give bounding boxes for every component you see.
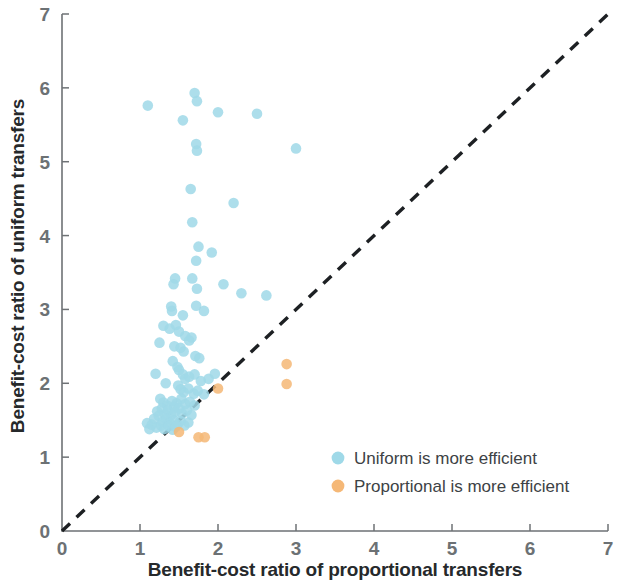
data-point <box>252 108 263 119</box>
data-point <box>228 198 239 209</box>
y-tick-label-7: 7 <box>39 4 50 25</box>
legend-label-1: Uniform is more efficient <box>354 449 537 468</box>
data-point <box>192 96 203 107</box>
data-point <box>187 217 198 228</box>
y-tick-label-5: 5 <box>39 152 50 173</box>
data-point <box>178 310 189 321</box>
x-tick-label-2: 2 <box>213 538 224 559</box>
data-point <box>187 273 198 284</box>
x-tick-label-5: 5 <box>447 538 458 559</box>
data-point <box>150 368 161 379</box>
y-tick-label-4: 4 <box>39 226 50 247</box>
data-point <box>194 353 205 364</box>
x-tick-label-1: 1 <box>135 538 146 559</box>
data-point <box>291 143 302 154</box>
scatter-chart: 0123456701234567 Uniform is more efficie… <box>0 0 629 582</box>
data-point <box>193 241 204 252</box>
data-point <box>281 379 292 390</box>
plot-area: 0123456701234567 Uniform is more efficie… <box>0 0 629 582</box>
data-point <box>174 427 185 438</box>
x-tick-label-3: 3 <box>291 538 302 559</box>
data-point <box>183 417 194 428</box>
data-point <box>213 383 224 394</box>
y-tick-label-0: 0 <box>39 521 50 542</box>
y-axis-title: Benefit-cost ratio of uniform transfers <box>7 99 28 433</box>
data-point <box>236 288 247 299</box>
data-point <box>184 335 195 346</box>
data-point <box>178 346 189 357</box>
legend-label-2: Proportional is more efficient <box>354 477 569 496</box>
y-tick-label-2: 2 <box>39 373 50 394</box>
data-point <box>261 290 272 301</box>
data-point <box>143 100 154 111</box>
data-point <box>167 306 178 317</box>
data-point <box>191 255 202 266</box>
data-point <box>281 359 292 370</box>
data-point <box>192 283 203 294</box>
data-point <box>206 247 217 258</box>
y-tick-label-6: 6 <box>39 78 50 99</box>
data-points-layer <box>142 88 302 443</box>
data-point <box>144 424 155 435</box>
legend-marker-1 <box>332 452 345 465</box>
legend-marker-2 <box>332 480 345 493</box>
y-tick-label-1: 1 <box>39 447 50 468</box>
legend: Uniform is more efficientProportional is… <box>332 449 570 496</box>
x-axis-title: Benefit-cost ratio of proportional trans… <box>148 559 522 580</box>
x-tick-label-0: 0 <box>57 538 68 559</box>
data-point <box>199 306 210 317</box>
data-point <box>160 378 171 389</box>
data-point <box>192 145 203 156</box>
x-tick-label-6: 6 <box>525 538 536 559</box>
data-point <box>178 115 189 126</box>
data-point <box>213 107 224 118</box>
data-point <box>185 184 196 195</box>
data-point <box>199 389 210 400</box>
data-point <box>154 337 165 348</box>
data-point <box>199 432 210 443</box>
y-tick-label-3: 3 <box>39 299 50 320</box>
data-point <box>210 368 221 379</box>
series-1 <box>142 88 302 435</box>
x-tick-label-7: 7 <box>603 538 614 559</box>
data-point <box>218 279 229 290</box>
x-tick-label-4: 4 <box>369 538 380 559</box>
data-point <box>168 279 179 290</box>
